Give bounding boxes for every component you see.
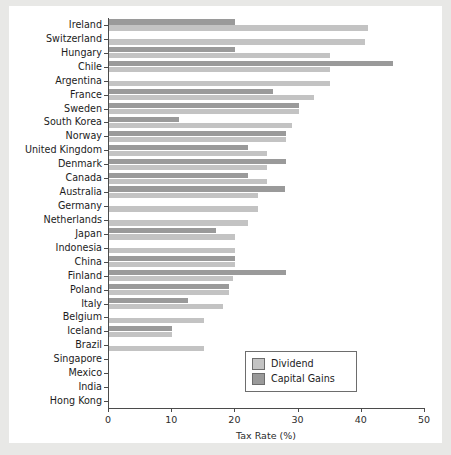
- bar-dividend[interactable]: [109, 95, 314, 100]
- y-tick: [104, 109, 108, 110]
- bar-capital-gains[interactable]: [109, 117, 179, 122]
- bar-dividend[interactable]: [109, 262, 235, 267]
- bar-group: Finland: [108, 269, 432, 283]
- category-label: Australia: [0, 187, 108, 197]
- y-tick: [104, 387, 108, 388]
- category-label: Germany: [0, 201, 108, 211]
- bar-dividend[interactable]: [109, 318, 204, 323]
- bar-dividend[interactable]: [109, 276, 233, 281]
- bar-dividend[interactable]: [109, 332, 172, 337]
- bar-capital-gains[interactable]: [109, 159, 286, 164]
- bar-dividend[interactable]: [109, 137, 286, 142]
- bar-dividend[interactable]: [109, 193, 258, 198]
- y-tick: [104, 164, 108, 165]
- bar-dividend[interactable]: [109, 151, 267, 156]
- bar-capital-gains[interactable]: [109, 284, 229, 289]
- bar-dividend[interactable]: [109, 346, 204, 351]
- y-tick: [104, 192, 108, 193]
- bar-dividend[interactable]: [109, 179, 267, 184]
- x-tick-label: 50: [418, 414, 430, 425]
- category-label: Belgium: [0, 312, 108, 322]
- bar-capital-gains[interactable]: [109, 89, 273, 94]
- y-tick: [104, 373, 108, 374]
- x-tick: [298, 408, 299, 412]
- bar-dividend[interactable]: [109, 248, 235, 253]
- y-tick: [104, 136, 108, 137]
- category-label: Poland: [0, 285, 108, 295]
- bar-capital-gains[interactable]: [109, 47, 235, 52]
- bar-dividend[interactable]: [109, 123, 292, 128]
- bar-dividend[interactable]: [109, 25, 368, 30]
- y-tick: [104, 122, 108, 123]
- y-tick: [104, 220, 108, 221]
- category-label: Netherlands: [0, 215, 108, 225]
- bar-capital-gains[interactable]: [109, 270, 286, 275]
- bar-capital-gains[interactable]: [109, 19, 235, 24]
- bar-dividend[interactable]: [109, 53, 330, 58]
- legend-swatch-capital-gains: [252, 373, 265, 385]
- bar-dividend[interactable]: [109, 39, 365, 44]
- bar-dividend[interactable]: [109, 165, 267, 170]
- legend-swatch-dividend: [252, 358, 265, 370]
- bar-group: Germany: [108, 199, 432, 213]
- category-label: Argentina: [0, 76, 108, 86]
- category-label: Denmark: [0, 159, 108, 169]
- bar-group: Canada: [108, 171, 432, 185]
- bar-group: Sweden: [108, 102, 432, 116]
- bar-capital-gains[interactable]: [109, 145, 248, 150]
- category-label: China: [0, 257, 108, 267]
- bar-group: Italy: [108, 297, 432, 311]
- y-tick: [104, 206, 108, 207]
- bar-capital-gains[interactable]: [109, 326, 172, 331]
- y-tick: [104, 331, 108, 332]
- bar-capital-gains[interactable]: [109, 186, 285, 191]
- category-label: Japan: [0, 229, 108, 239]
- category-label: Chile: [0, 62, 108, 72]
- y-tick: [104, 178, 108, 179]
- category-label: France: [0, 90, 108, 100]
- bar-dividend[interactable]: [109, 234, 235, 239]
- bar-group: Argentina: [108, 74, 432, 88]
- x-tick-label: 0: [105, 414, 111, 425]
- bar-dividend[interactable]: [109, 81, 330, 86]
- bar-group: South Korea: [108, 116, 432, 130]
- bar-group: China: [108, 255, 432, 269]
- bar-group: Japan: [108, 227, 432, 241]
- bar-capital-gains[interactable]: [109, 131, 286, 136]
- legend-item-capital-gains[interactable]: Capital Gains: [252, 371, 350, 386]
- legend-label-capital-gains: Capital Gains: [271, 373, 335, 384]
- y-tick: [104, 262, 108, 263]
- bar-capital-gains[interactable]: [109, 61, 393, 66]
- bar-group: Australia: [108, 185, 432, 199]
- x-tick-label: 20: [228, 414, 240, 425]
- bar-dividend[interactable]: [109, 220, 248, 225]
- bar-dividend[interactable]: [109, 290, 229, 295]
- category-label: Norway: [0, 131, 108, 141]
- y-tick: [104, 290, 108, 291]
- bar-group: Poland: [108, 283, 432, 297]
- chart-legend[interactable]: Dividend Capital Gains: [245, 351, 357, 392]
- bar-group: Netherlands: [108, 213, 432, 227]
- category-label: Sweden: [0, 104, 108, 114]
- bar-group: Chile: [108, 60, 432, 74]
- bar-capital-gains[interactable]: [109, 173, 248, 178]
- chart-figure: 01020304050 IrelandSwitzerlandHungaryChi…: [9, 6, 442, 443]
- bar-dividend[interactable]: [109, 304, 223, 309]
- bar-capital-gains[interactable]: [109, 256, 235, 261]
- bar-dividend[interactable]: [109, 67, 330, 72]
- y-tick: [104, 39, 108, 40]
- bar-dividend[interactable]: [109, 206, 258, 211]
- y-tick: [104, 234, 108, 235]
- category-label: Singapore: [0, 354, 108, 364]
- y-tick: [104, 304, 108, 305]
- legend-item-dividend[interactable]: Dividend: [252, 356, 350, 371]
- bar-dividend[interactable]: [109, 109, 299, 114]
- bar-capital-gains[interactable]: [109, 298, 188, 303]
- category-label: Italy: [0, 299, 108, 309]
- bar-group: Indonesia: [108, 241, 432, 255]
- bar-capital-gains[interactable]: [109, 103, 299, 108]
- y-tick: [104, 276, 108, 277]
- bar-capital-gains[interactable]: [109, 228, 216, 233]
- y-tick: [104, 359, 108, 360]
- bar-group: Hungary: [108, 46, 432, 60]
